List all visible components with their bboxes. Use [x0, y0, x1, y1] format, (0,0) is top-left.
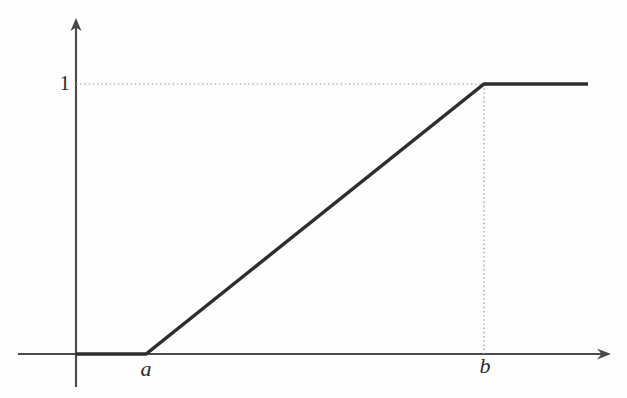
y-axis: [71, 18, 82, 387]
x-axis-tick-label-a: a: [133, 358, 159, 380]
ramp-curve: [76, 84, 588, 354]
plot-area: [0, 0, 627, 398]
x-axis-tick-label-b: b: [472, 355, 498, 377]
y-axis-tick-label-1: 1: [50, 73, 70, 94]
figure-canvas: 1 a b: [0, 0, 627, 398]
